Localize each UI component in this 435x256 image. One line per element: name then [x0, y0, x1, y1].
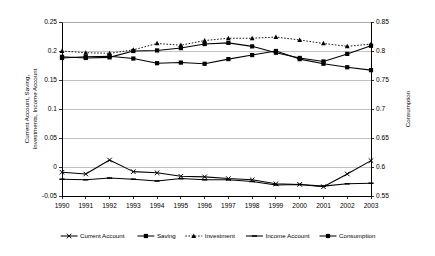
data-point [131, 56, 135, 60]
legend-label: Investment [205, 232, 236, 239]
legend-item: Saving [137, 232, 176, 239]
data-point [202, 38, 207, 43]
y-tick-label-right: 0.65 [376, 134, 389, 141]
x-tick-label: 2001 [316, 202, 331, 209]
x-tick-label: 2002 [340, 202, 355, 209]
y-tick-label-left: 0.05 [44, 134, 57, 141]
legend-item: Investment [185, 232, 235, 239]
data-point [203, 42, 207, 46]
x-tick-label: 1990 [55, 202, 70, 209]
legend-item: Current Account [61, 232, 125, 239]
y-tick-label-right: 0.8 [376, 47, 385, 54]
y-tick-label-left: -0.05 [42, 192, 57, 199]
data-point [345, 183, 350, 185]
legend-label: Consumption [339, 232, 376, 239]
y-tick-label-left: 0.15 [44, 76, 57, 83]
x-tick-label: 1999 [269, 202, 284, 209]
data-point [321, 62, 325, 66]
x-tick-label: 1998 [245, 202, 260, 209]
x-tick-label: 1994 [150, 202, 165, 209]
legend-marker [252, 235, 257, 237]
legend-item: Consumption [319, 232, 376, 239]
data-point [107, 54, 111, 58]
data-point [298, 57, 302, 61]
series-current-account [60, 158, 374, 189]
data-point [155, 41, 160, 46]
data-point [179, 61, 183, 65]
y-tick-label-right: 0.7 [376, 105, 385, 112]
y-tick-label-right: 0.6 [376, 163, 385, 170]
data-point [250, 44, 254, 48]
data-point [274, 49, 278, 53]
data-point [274, 34, 279, 39]
y-tick-label-left: 0.25 [44, 18, 57, 25]
data-point [345, 52, 349, 56]
data-point [226, 57, 230, 61]
y-tick-label-right: 0.75 [376, 76, 389, 83]
data-point [226, 41, 230, 45]
data-point [60, 56, 64, 60]
legend-label: Income Account [265, 232, 309, 239]
data-point [202, 179, 207, 181]
data-point [226, 179, 231, 181]
data-point [203, 62, 207, 66]
y-axis-title-left-line1: Current Account, Saving, [23, 75, 30, 144]
legend-item: Income Account [246, 232, 310, 239]
data-point [369, 68, 373, 72]
data-point [321, 185, 326, 187]
data-point [250, 181, 255, 183]
data-point [178, 178, 183, 180]
data-point [154, 180, 159, 182]
data-point [84, 55, 88, 59]
x-tick-label: 2003 [364, 202, 379, 209]
series-investment [60, 34, 374, 55]
legend-label: Saving [157, 232, 176, 239]
series-income-account [59, 177, 373, 187]
y-axis-title-left-line2: Investments, Income Account [31, 68, 38, 149]
data-point [273, 184, 278, 186]
data-point [345, 65, 349, 69]
y-axis-title-right: Consumption [404, 90, 411, 127]
x-tick-label: 1991 [78, 202, 93, 209]
y-tick-label-left: 0.1 [48, 105, 57, 112]
data-point [131, 178, 136, 180]
legend-marker [326, 234, 330, 238]
y-tick-label-left: 0 [53, 163, 57, 170]
data-point [321, 41, 326, 46]
line-chart: -0.0500.050.10.150.20.250.550.60.650.70.… [0, 0, 435, 256]
y-tick-label-right: 0.85 [376, 18, 389, 25]
chart-container: -0.0500.050.10.150.20.250.550.60.650.70.… [0, 0, 435, 256]
x-tick-label: 1993 [126, 202, 141, 209]
x-tick-label: 1997 [221, 202, 236, 209]
legend-marker [144, 234, 148, 238]
data-point [368, 182, 373, 184]
x-tick-label: 1996 [197, 202, 212, 209]
data-point [297, 184, 302, 186]
data-point [155, 48, 159, 52]
y-tick-label-left: 0.2 [48, 47, 57, 54]
x-tick-label: 2000 [292, 202, 307, 209]
data-point [155, 61, 159, 65]
x-tick-label: 1992 [102, 202, 117, 209]
series-line [62, 160, 371, 187]
x-tick-label: 1995 [174, 202, 189, 209]
y-tick-label-right: 0.55 [376, 192, 389, 199]
data-point [59, 178, 64, 180]
legend-label: Current Account [80, 232, 125, 239]
data-point [83, 179, 88, 181]
data-point [250, 53, 254, 57]
data-point [107, 177, 112, 179]
